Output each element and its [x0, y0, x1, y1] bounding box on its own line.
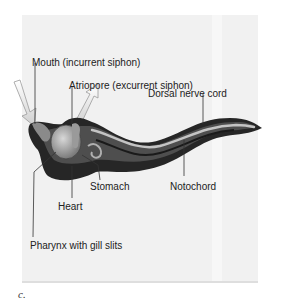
figure-panel-label: c.	[18, 288, 26, 300]
label-stomach: Stomach	[90, 181, 129, 192]
label-pharynx: Pharynx with gill slits	[30, 240, 122, 251]
label-heart: Heart	[58, 201, 82, 212]
label-notochord: Notochord	[170, 181, 216, 192]
incurrent-flow-arrow	[14, 80, 36, 126]
label-mouth: Mouth (incurrent siphon)	[32, 57, 140, 68]
lancelet-body	[28, 118, 262, 181]
lancelet-illustration	[0, 0, 289, 302]
label-dorsal-nerve-cord: Dorsal nerve cord	[148, 88, 227, 99]
